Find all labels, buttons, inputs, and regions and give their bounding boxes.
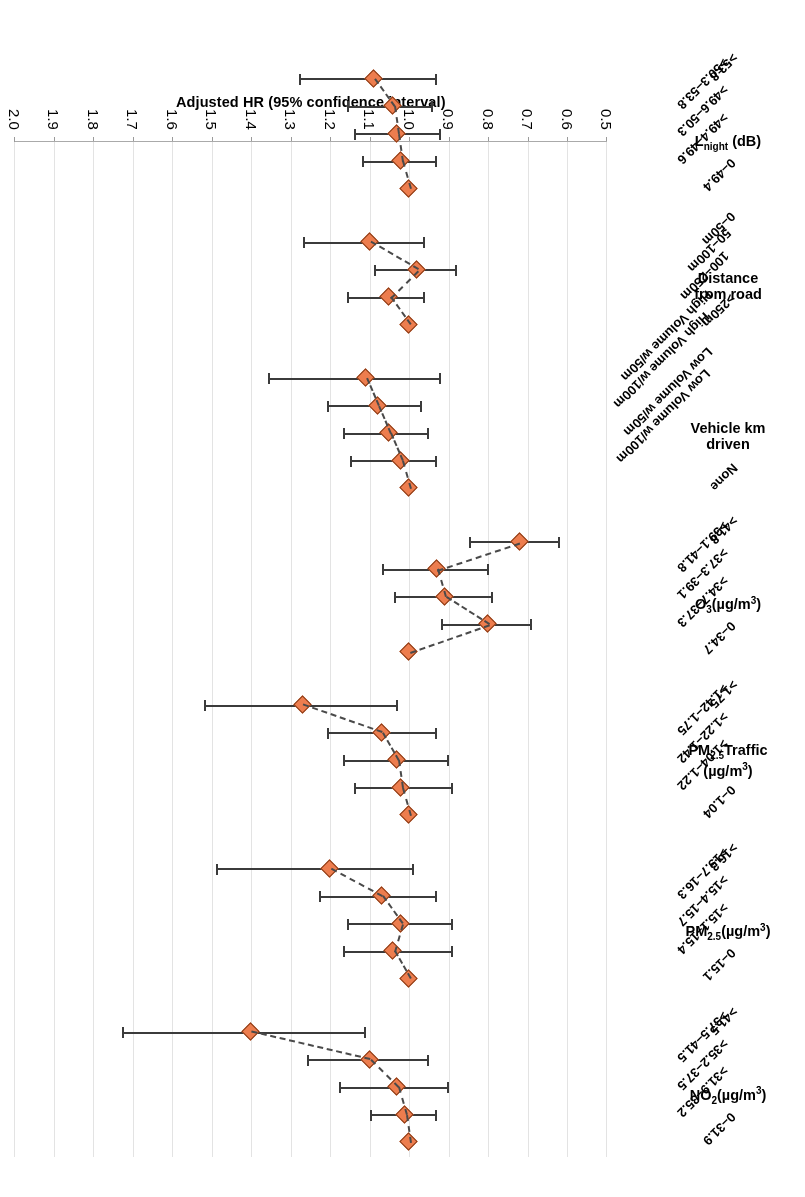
ci-cap-lower [412,864,414,875]
ci-cap-upper [204,701,206,712]
confidence-interval-line [216,869,413,871]
gridline [54,142,55,1157]
confidence-interval-line [268,378,442,380]
group-label: Lnight (dB) [653,133,803,152]
connector-line [331,868,383,897]
gridline [93,142,94,1157]
ci-cap-lower [420,401,422,412]
gridline [449,142,450,1157]
group-label: NO2(µg/m3) [653,1085,803,1106]
connector-line [437,543,520,572]
group-label: O3(µg/m3) [653,595,803,616]
ci-cap-upper [303,238,305,249]
ci-cap-lower [427,1055,429,1066]
value-axis-line [15,141,607,142]
ci-cap-upper [307,1055,309,1066]
axis-tick-label: 0.5 [599,98,616,142]
axis-tick-label: 0.6 [559,98,576,142]
ci-cap-lower [451,783,453,794]
connector-line [370,1059,399,1088]
gridline [133,142,134,1157]
gridline [607,142,608,1157]
ci-cap-upper [374,265,376,276]
ci-cap-upper [339,1083,341,1094]
axis-tick-label: 1.9 [46,98,63,142]
group-label: Distancefrom road [653,270,803,302]
ci-cap-lower [435,74,437,85]
ci-cap-upper [216,864,218,875]
gridline [567,142,568,1157]
ci-cap-lower [455,265,457,276]
gridline [528,142,529,1157]
ci-cap-lower [447,1083,449,1094]
ci-cap-upper [394,592,396,603]
gridline [330,142,331,1157]
gridline [370,142,371,1157]
ci-cap-upper [350,456,352,467]
axis-tick-label: 0.8 [480,98,497,142]
ci-cap-lower [423,238,425,249]
ci-cap-lower [435,892,437,903]
ci-cap-upper [122,1028,124,1039]
axis-tick-label: 1.7 [125,98,142,142]
ci-cap-lower [439,129,441,140]
connector-line [445,596,489,625]
rotated-figure-container: 2.01.91.81.71.61.51.41.31.21.11.00.90.80… [0,0,805,1197]
gridline [291,142,292,1157]
ci-cap-upper [347,102,349,113]
axis-tick-label: 0.7 [520,98,537,142]
group-label: Vehicle kmdriven [653,420,803,452]
ci-cap-upper [327,728,329,739]
connector-line [390,271,419,300]
connector-line [252,1031,371,1060]
ci-cap-upper [370,1110,372,1121]
ci-cap-upper [362,157,364,168]
forest-plot-figure: 2.01.91.81.71.61.51.41.31.21.11.00.90.80… [0,0,805,1197]
ci-cap-upper [343,756,345,767]
ci-cap-upper [354,783,356,794]
data-point-marker [360,233,378,251]
gridline [15,142,16,1157]
ci-cap-upper [343,947,345,958]
connector-line [370,241,418,270]
ci-cap-upper [268,374,270,385]
ci-cap-lower [439,374,441,385]
ci-cap-lower [423,293,425,304]
group-label: PM2.5Traffic(µg/m3) [653,742,803,779]
ci-cap-lower [451,919,453,930]
ci-cap-lower [530,620,532,631]
group-label: PM2.5(µg/m3) [653,922,803,943]
ci-cap-upper [327,401,329,412]
ci-cap-lower [558,537,560,548]
ci-cap-lower [427,429,429,440]
gridline [172,142,173,1157]
ci-cap-upper [441,620,443,631]
ci-cap-lower [435,456,437,467]
ci-cap-upper [354,129,356,140]
axis-tick-label: 2.0 [7,98,24,142]
ci-cap-lower [487,565,489,576]
ci-cap-upper [382,565,384,576]
ci-cap-lower [431,102,433,113]
ci-cap-upper [347,919,349,930]
connector-line [390,297,411,326]
gridline [212,142,213,1157]
axis-tick-label: 1.8 [85,98,102,142]
ci-cap-lower [396,701,398,712]
ci-cap-lower [451,947,453,958]
gridline [251,142,252,1157]
connector-line [303,704,383,733]
gridline [488,142,489,1157]
ci-cap-upper [469,537,471,548]
ci-cap-lower [447,756,449,767]
ci-cap-upper [347,293,349,304]
ci-cap-lower [435,1110,437,1121]
ci-cap-lower [435,728,437,739]
ci-cap-lower [491,592,493,603]
ci-cap-upper [343,429,345,440]
ci-cap-upper [299,74,301,85]
ci-cap-lower [364,1028,366,1039]
ci-cap-lower [435,157,437,168]
ci-cap-upper [319,892,321,903]
